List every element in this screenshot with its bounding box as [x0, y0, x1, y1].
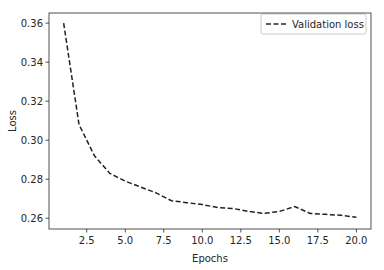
x-tick-label: 17.5	[307, 235, 329, 246]
x-tick-label: 5.0	[117, 235, 133, 246]
y-tick-label: 0.36	[21, 18, 43, 29]
series-line-0	[64, 23, 357, 217]
x-tick-label: 20.0	[345, 235, 367, 246]
y-axis-label: Loss	[7, 110, 18, 132]
y-tick-label: 0.34	[21, 57, 43, 68]
axes-frame	[49, 13, 371, 229]
x-tick-label: 15.0	[268, 235, 290, 246]
y-tick-label: 0.26	[21, 213, 43, 224]
plot-area	[64, 23, 357, 217]
x-tick-label: 12.5	[230, 235, 252, 246]
y-tick-label: 0.28	[21, 174, 43, 185]
x-tick-label: 7.5	[156, 235, 172, 246]
y-tick-label: 0.30	[21, 135, 43, 146]
legend: Validation loss	[261, 14, 366, 34]
x-tick-label: 10.0	[191, 235, 213, 246]
y-axis: 0.260.280.300.320.340.36	[21, 18, 49, 224]
line-chart: 2.55.07.510.012.515.017.520.0 0.260.280.…	[0, 0, 384, 270]
x-axis-label: Epochs	[192, 253, 228, 264]
x-tick-label: 2.5	[79, 235, 95, 246]
y-tick-label: 0.32	[21, 96, 43, 107]
x-axis: 2.55.07.510.012.515.017.520.0	[79, 229, 368, 246]
legend-label: Validation loss	[292, 19, 364, 30]
